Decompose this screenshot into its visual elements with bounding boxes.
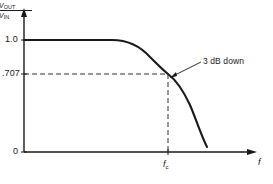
y-axis-label-numerator: VOUT bbox=[0, 2, 32, 11]
y-axis-denominator-subscript: IN bbox=[4, 14, 10, 20]
y-tick-label-707: .707 bbox=[2, 69, 20, 78]
callout-leader-line bbox=[173, 62, 201, 76]
response-curve bbox=[24, 40, 207, 147]
y-axis-label-denominator: VIN bbox=[0, 11, 32, 20]
x-tick-label-fc: fc bbox=[163, 160, 169, 169]
callout-arrowhead bbox=[170, 72, 177, 78]
y-axis-label: VOUT VIN bbox=[0, 2, 32, 19]
y-axis-numerator-subscript: OUT bbox=[4, 4, 16, 10]
x-axis-arrowhead bbox=[247, 149, 257, 155]
plot-canvas bbox=[0, 0, 273, 184]
y-tick-label-0: 0 bbox=[13, 147, 18, 156]
frequency-response-figure: VOUT VIN 1.0 .707 0 fc f 3 dB down bbox=[0, 0, 273, 184]
three-db-down-annotation: 3 dB down bbox=[203, 57, 244, 66]
cutoff-subscript: c bbox=[166, 164, 169, 170]
x-axis-label: f bbox=[258, 158, 261, 167]
y-tick-label-1-0: 1.0 bbox=[5, 35, 18, 44]
